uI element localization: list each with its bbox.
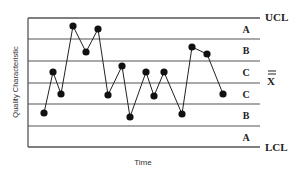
zone-label-b: B bbox=[243, 45, 250, 56]
zone-label-a: A bbox=[242, 24, 250, 35]
center-line-label: X bbox=[267, 71, 276, 87]
data-point bbox=[160, 68, 167, 75]
data-point bbox=[118, 62, 125, 69]
data-point bbox=[203, 50, 210, 57]
data-point bbox=[40, 109, 47, 116]
control-chart: ABCCBA UCL LCL X Time Quality Characteri… bbox=[0, 0, 298, 177]
data-point bbox=[94, 25, 101, 32]
data-point bbox=[150, 92, 157, 99]
data-point bbox=[57, 90, 64, 97]
data-point bbox=[126, 113, 133, 120]
ucl-label: UCL bbox=[265, 11, 288, 23]
zone-label-c: C bbox=[242, 67, 249, 78]
data-point bbox=[178, 110, 185, 117]
lcl-label: LCL bbox=[265, 141, 288, 153]
data-point bbox=[104, 91, 111, 98]
data-point bbox=[49, 68, 56, 75]
zone-label-b: B bbox=[243, 110, 250, 121]
x-bar-label: X bbox=[267, 75, 275, 87]
data-point bbox=[69, 22, 76, 29]
x-axis-label: Time bbox=[134, 158, 152, 167]
zone-label-a: A bbox=[242, 132, 250, 143]
data-point bbox=[219, 90, 226, 97]
zone-label-c: C bbox=[242, 89, 249, 100]
y-axis-label: Quality Characteristic bbox=[11, 46, 20, 118]
data-line bbox=[44, 26, 223, 117]
data-point bbox=[188, 43, 195, 50]
data-point bbox=[82, 48, 89, 55]
data-point bbox=[142, 68, 149, 75]
